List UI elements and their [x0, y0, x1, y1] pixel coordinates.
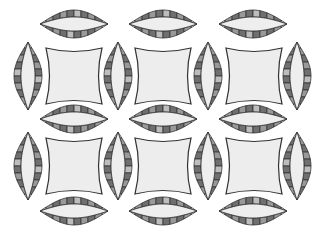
- vertical-ring-arc-0: [14, 42, 42, 110]
- curved-square-5: [226, 138, 282, 194]
- vertical-ring-arc-7: [283, 132, 311, 200]
- horizontal-ring-arc-5: [219, 105, 287, 133]
- vertical-ring-arc-4: [14, 132, 42, 200]
- horizontal-ring-arc-7: [129, 197, 197, 225]
- double-wedding-ring-pattern: [0, 0, 322, 240]
- curved-square-1: [135, 48, 191, 104]
- curved-square-3: [46, 138, 102, 194]
- curved-square-0: [46, 48, 102, 104]
- curved-square-2: [226, 48, 282, 104]
- curved-square-4: [135, 138, 191, 194]
- vertical-ring-arc-2: [194, 42, 222, 110]
- vertical-ring-arc-1: [104, 42, 132, 110]
- horizontal-ring-arc-2: [219, 10, 287, 38]
- horizontal-ring-arc-1: [129, 10, 197, 38]
- horizontal-ring-arc-4: [129, 105, 197, 133]
- vertical-ring-arc-3: [283, 42, 311, 110]
- quilt-pattern-canvas: [0, 0, 322, 240]
- horizontal-ring-arc-3: [40, 105, 108, 133]
- horizontal-ring-arc-0: [40, 10, 108, 38]
- vertical-ring-arc-6: [194, 132, 222, 200]
- horizontal-ring-arc-8: [219, 197, 287, 225]
- horizontal-ring-arc-6: [40, 197, 108, 225]
- vertical-ring-arc-5: [104, 132, 132, 200]
